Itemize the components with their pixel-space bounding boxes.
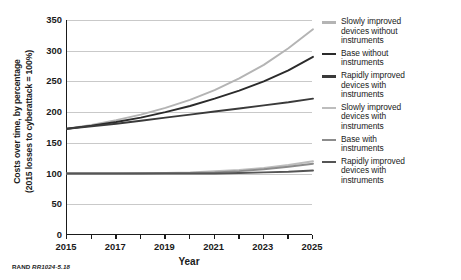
legend-item-label: Rapidly improveddevices withinstruments [341, 157, 405, 186]
legend-swatch-icon [322, 161, 336, 164]
legend-item[interactable]: Slowly improveddevices withoutinstrument… [322, 17, 460, 46]
legend-item[interactable]: Rapidly improveddevices withinstruments [322, 157, 460, 186]
y-tick-label: 300 [46, 46, 62, 55]
legend-item-label: Slowly improveddevices withoutinstrument… [341, 17, 401, 46]
y-axis-tick-labels: 050100150200250300350 [34, 20, 62, 235]
legend-swatch-icon [322, 53, 336, 56]
y-axis-title-line2: (2015 losses to cyberattack = 100%) [23, 7, 35, 237]
x-tick [164, 235, 165, 239]
plot-area [66, 20, 312, 235]
chart-legend: Slowly improveddevices withoutinstrument… [322, 17, 460, 189]
y-tick-label: 200 [46, 107, 62, 116]
x-tick-label: 2017 [105, 241, 126, 252]
y-tick-label: 50 [52, 200, 62, 209]
x-tick-label: 2023 [252, 241, 273, 252]
legend-item[interactable]: Base withoutinstruments [322, 49, 460, 68]
x-tick-label: 2015 [56, 241, 77, 252]
legend-item[interactable]: Rapidly improveddevices withinstruments [322, 71, 460, 100]
legend-item[interactable]: Slowly improveddevices withinstruments [322, 103, 460, 132]
y-tick-label: 250 [46, 77, 62, 86]
x-tick [91, 235, 92, 239]
legend-item[interactable]: Base withinstruments [322, 135, 460, 154]
legend-swatch-icon [322, 107, 336, 110]
source-note: RAND RR1024-5.18 [12, 263, 70, 270]
x-tick [115, 235, 116, 239]
x-tick [287, 235, 288, 239]
y-tick-label: 350 [46, 15, 62, 24]
y-tick-label: 0 [57, 230, 62, 239]
y-axis-title: Costs over time, by percentage (2015 los… [12, 7, 35, 237]
y-axis-title-line1: Costs over time, by percentage [12, 7, 24, 237]
x-tick-label: 2021 [203, 241, 224, 252]
legend-item-label: Base withinstruments [341, 135, 384, 154]
x-tick [238, 235, 239, 239]
source-note-prefix: RAND [12, 263, 32, 270]
y-tick-label: 100 [46, 169, 62, 178]
x-tick [312, 235, 313, 239]
x-axis-tick-labels: 201520172019202120232025 [16, 241, 362, 255]
series-lines [67, 20, 313, 235]
legend-swatch-icon [322, 139, 336, 142]
legend-item-label: Base withoutinstruments [341, 49, 388, 68]
series-line [67, 99, 313, 129]
x-tick-label: 2025 [302, 241, 323, 252]
legend-swatch-icon [322, 75, 336, 78]
legend-item-label: Slowly improveddevices withinstruments [341, 103, 401, 132]
legend-item-label: Rapidly improveddevices withinstruments [341, 71, 405, 100]
x-tick [214, 235, 215, 239]
series-line [67, 57, 313, 129]
x-tick [263, 235, 264, 239]
y-tick-label: 150 [46, 138, 62, 147]
legend-swatch-icon [322, 21, 336, 24]
source-note-id: RR1024-5.18 [32, 263, 70, 270]
x-tick [140, 235, 141, 239]
x-axis-ticks [66, 235, 312, 240]
x-tick-label: 2019 [154, 241, 175, 252]
x-tick [189, 235, 190, 239]
chart-figure: Costs over time, by percentage (2015 los… [0, 0, 461, 280]
x-axis-title: Year [66, 256, 312, 267]
x-tick [66, 235, 67, 239]
